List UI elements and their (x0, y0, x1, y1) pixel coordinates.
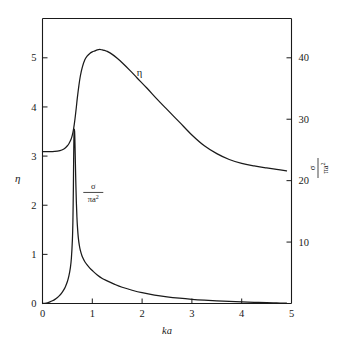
x-tick-label: 3 (189, 308, 194, 319)
svg-text:σ: σ (307, 165, 317, 170)
right-tick-label: 40 (299, 52, 310, 63)
right-axis-title: σπa2 (307, 158, 330, 178)
eta-curve (43, 49, 287, 170)
svg-text:πa2: πa2 (320, 162, 330, 173)
x-axis-title: ka (162, 325, 172, 336)
figure-container: 01234501234510203040ησπa2kaσπa2 η (0, 0, 339, 350)
right-tick-label: 10 (299, 237, 310, 248)
x-tick-label: 2 (139, 308, 144, 319)
left-axis-ticks: 012345 (31, 52, 47, 309)
x-tick-label: 4 (239, 308, 245, 319)
x-tick-label: 0 (40, 308, 45, 319)
left-tick-label: 0 (31, 298, 36, 309)
right-tick-label: 20 (299, 175, 310, 186)
sigma-curve-label: σπa2 (83, 181, 103, 204)
left-axis-title: η (15, 172, 20, 184)
x-tick-label: 1 (90, 308, 95, 319)
sigma-curve (43, 129, 287, 303)
svg-text:σ: σ (91, 181, 96, 191)
svg-text:πa2: πa2 (88, 194, 99, 204)
eta-curve-label: η (137, 67, 143, 78)
left-tick-label: 1 (31, 249, 36, 260)
scattering-chart: 01234501234510203040ησπa2kaσπa2 (0, 0, 339, 350)
left-tick-label: 4 (31, 102, 37, 113)
plot-frame (43, 19, 292, 304)
left-tick-label: 2 (31, 200, 36, 211)
right-tick-label: 30 (299, 114, 310, 125)
right-axis-ticks: 10203040 (287, 52, 310, 247)
left-tick-label: 3 (31, 151, 36, 162)
x-tick-label: 5 (289, 308, 294, 319)
x-axis-ticks: 012345 (40, 299, 294, 319)
left-tick-label: 5 (31, 52, 36, 63)
